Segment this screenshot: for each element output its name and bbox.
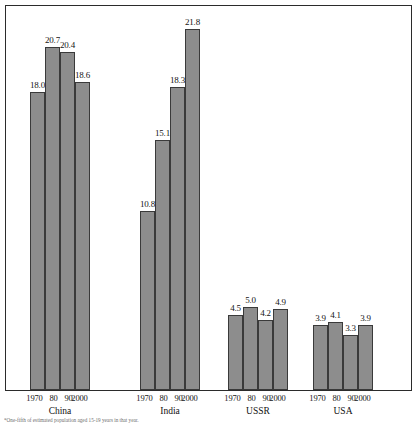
bar-india-1970[interactable]: [140, 211, 155, 390]
bar-value-label-ussr-2000: 4.9: [270, 298, 292, 307]
bar-value-label-india-2000: 21.8: [182, 18, 204, 27]
bar-ussr-80[interactable]: [243, 307, 258, 390]
x-tick-ussr-1970: 1970: [223, 394, 243, 403]
bar-value-label-usa-2000: 3.9: [355, 314, 377, 323]
x-tick-usa-2000: 2000: [353, 394, 373, 403]
bar-india-80[interactable]: [155, 140, 170, 390]
bar-india-2000[interactable]: [185, 29, 200, 390]
bar-usa-2000[interactable]: [358, 325, 373, 390]
bar-usa-90[interactable]: [343, 335, 358, 390]
group-label-usa: USA: [313, 406, 373, 416]
bar-china-1970[interactable]: [30, 92, 45, 390]
bar-ussr-1970[interactable]: [228, 315, 243, 390]
x-tick-india-80: 80: [158, 394, 170, 403]
chart-page: 18.020.720.418.610.815.118.321.84.55.04.…: [0, 0, 419, 427]
bar-usa-1970[interactable]: [313, 325, 328, 390]
x-tick-india-1970: 1970: [135, 394, 155, 403]
group-label-india: India: [140, 406, 200, 416]
bar-india-90[interactable]: [170, 87, 185, 390]
group-label-china: China: [30, 406, 90, 416]
bar-china-90[interactable]: [60, 52, 75, 390]
bar-value-label-usa-80: 4.1: [325, 311, 347, 320]
x-tick-india-2000: 2000: [180, 394, 200, 403]
x-tick-usa-80: 80: [331, 394, 343, 403]
chart-footnote: *One-fifth of estimated population aged …: [4, 417, 324, 423]
x-tick-china-80: 80: [48, 394, 60, 403]
x-tick-china-1970: 1970: [25, 394, 45, 403]
bar-value-label-ussr-80: 5.0: [240, 296, 262, 305]
bar-ussr-2000[interactable]: [273, 309, 288, 390]
x-tick-usa-1970: 1970: [308, 394, 328, 403]
bar-china-2000[interactable]: [75, 82, 90, 390]
group-label-ussr: USSR: [228, 406, 288, 416]
bar-ussr-90[interactable]: [258, 320, 273, 390]
x-tick-ussr-80: 80: [246, 394, 258, 403]
x-tick-ussr-2000: 2000: [268, 394, 288, 403]
bar-value-label-china-2000: 18.6: [72, 71, 94, 80]
bar-china-80[interactable]: [45, 47, 60, 390]
bar-value-label-china-90: 20.4: [57, 41, 79, 50]
x-tick-china-2000: 2000: [70, 394, 90, 403]
